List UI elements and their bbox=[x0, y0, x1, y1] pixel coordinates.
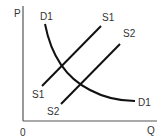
origin-label: 0 bbox=[20, 127, 26, 138]
demand-label-top: D1 bbox=[40, 11, 53, 22]
demand-curve-d1 bbox=[45, 24, 135, 101]
supply-curve-s2 bbox=[61, 44, 120, 104]
supply2-label-start: S2 bbox=[47, 106, 60, 117]
supply1-label-end: S1 bbox=[102, 12, 115, 23]
supply2-label-end: S2 bbox=[123, 28, 136, 39]
supply1-label-start: S1 bbox=[32, 89, 45, 100]
x-axis-label: Q bbox=[147, 125, 155, 136]
demand-label-end: D1 bbox=[138, 97, 151, 108]
supply-demand-diagram: P Q 0 D1 D1 S1 S1 S2 S2 bbox=[0, 0, 163, 139]
y-axis-label: P bbox=[14, 8, 21, 19]
